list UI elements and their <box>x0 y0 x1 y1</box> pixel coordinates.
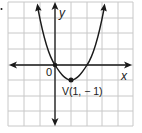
coordinate-plane: y x 0 V(1, − 1) <box>0 0 142 133</box>
vertex-label: V(1, − 1) <box>62 85 103 97</box>
x-axis-label: x <box>120 69 128 83</box>
item-bullet <box>1 8 3 10</box>
vertex-point <box>69 78 74 83</box>
y-axis-label: y <box>58 6 66 20</box>
origin-point <box>53 63 58 68</box>
origin-label: 0 <box>46 66 52 78</box>
grid <box>8 2 133 126</box>
